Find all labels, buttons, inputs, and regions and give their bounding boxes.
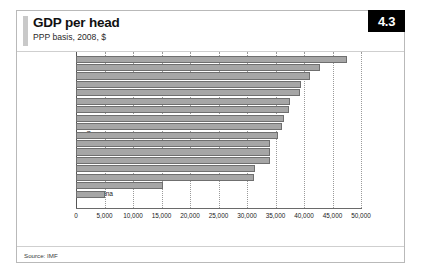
bar-row: Russia: [17, 182, 404, 190]
x-tick-label: 0: [74, 212, 78, 219]
bar-track: [76, 123, 361, 130]
bar-track: [76, 182, 361, 189]
source-note: Source: IMF: [24, 252, 58, 259]
chart-number-badge: 4.3: [368, 10, 405, 32]
bar-track: [76, 72, 361, 79]
chart-subtitle: PPP basis, 2008, $: [33, 32, 106, 42]
bar-row: UK: [17, 114, 404, 122]
bar-track: [76, 174, 361, 181]
bar-track: [76, 89, 361, 96]
x-tick-label: 30,000: [237, 212, 257, 219]
source-divider: [17, 246, 404, 247]
bar: [76, 174, 254, 181]
bar: [76, 98, 290, 105]
chart-figure: GDP per head PPP basis, 2008, $ 4.3 USSw…: [16, 10, 405, 263]
bar-row: Sweden: [17, 97, 404, 105]
x-tick-label: 35,000: [266, 212, 286, 219]
bar-track: [76, 98, 361, 105]
x-tick-label: 45,000: [323, 212, 343, 219]
title-accent-bar: [23, 16, 28, 46]
bar: [76, 106, 289, 113]
x-tick-label: 10,000: [123, 212, 143, 219]
x-tick-label: 40,000: [294, 212, 314, 219]
bar-track: [76, 132, 361, 139]
bar-track: [76, 56, 361, 63]
bar-row: Belgium: [17, 123, 404, 131]
bar-row: Canada: [17, 80, 404, 88]
bar-row: Germany: [17, 131, 404, 139]
bar: [76, 72, 310, 79]
bar-track: [76, 115, 361, 122]
bar: [76, 157, 270, 164]
x-tick-label: 15,000: [152, 212, 172, 219]
bar-track: [76, 140, 361, 147]
bar-row: Switzerland: [17, 63, 404, 71]
bar-rows: USSwitzerlandNetherlandsCanadaAustriaSwe…: [17, 55, 404, 198]
bar: [76, 132, 278, 139]
bar: [76, 191, 105, 198]
bar: [76, 115, 284, 122]
bar: [76, 64, 320, 71]
x-axis-tick-labels: 05,00010,00015,00020,00025,00030,00035,0…: [76, 212, 361, 224]
bar-row: Japan: [17, 148, 404, 156]
plot-area: USSwitzerlandNetherlandsCanadaAustriaSwe…: [17, 52, 404, 262]
bar-track: [76, 64, 361, 71]
bar: [76, 140, 270, 147]
bar-row: Austria: [17, 89, 404, 97]
bar-row: Spain: [17, 173, 404, 181]
bar-track: [76, 106, 361, 113]
bar-track: [76, 165, 361, 172]
bar-track: [76, 157, 361, 164]
bar: [76, 81, 301, 88]
bar-row: US: [17, 55, 404, 63]
bar: [76, 56, 347, 63]
bar-row: Euro area: [17, 139, 404, 147]
x-tick-label: 50,000: [351, 212, 371, 219]
chart-header: GDP per head PPP basis, 2008, $ 4.3: [17, 11, 404, 51]
chart-title: GDP per head: [33, 15, 120, 30]
axis-baseline: [76, 208, 362, 209]
x-tick-label: 5,000: [97, 212, 113, 219]
x-tick-label: 25,000: [209, 212, 229, 219]
bar-row: France: [17, 156, 404, 164]
bar: [76, 89, 300, 96]
bar-row: China: [17, 190, 404, 198]
bar: [76, 165, 255, 172]
bar-row: Netherlands: [17, 72, 404, 80]
bar-row: Australia: [17, 106, 404, 114]
bar-track: [76, 191, 361, 198]
bar: [76, 123, 282, 130]
bar: [76, 182, 163, 189]
bar-track: [76, 81, 361, 88]
bar-track: [76, 148, 361, 155]
x-tick-label: 20,000: [180, 212, 200, 219]
bar-row: Italy: [17, 165, 404, 173]
bar: [76, 148, 270, 155]
